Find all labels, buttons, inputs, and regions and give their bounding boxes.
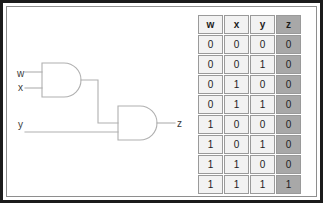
- cell-y: 1: [250, 55, 275, 74]
- input-label-w: w: [17, 69, 24, 79]
- table-row: 1 1 1 1: [198, 175, 301, 194]
- cell-z: 0: [276, 95, 301, 114]
- truth-table-head: w x y z: [198, 15, 301, 34]
- table-row: 0 0 0 0: [198, 35, 301, 54]
- column-header-y: y: [250, 15, 275, 34]
- cell-w: 0: [198, 95, 223, 114]
- table-row: 0 0 1 0: [198, 55, 301, 74]
- cell-z: 0: [276, 55, 301, 74]
- truth-table-wrapper: w x y z 0 0 0 0 0 0 1 0: [197, 14, 302, 186]
- cell-z: 0: [276, 75, 301, 94]
- wire-gate1-to-gate2: [81, 80, 118, 123]
- and-gate-2-body: [118, 106, 157, 140]
- cell-x: 1: [224, 95, 249, 114]
- cell-y: 0: [250, 35, 275, 54]
- cell-y: 0: [250, 155, 275, 174]
- cell-w: 0: [198, 55, 223, 74]
- cell-y: 1: [250, 95, 275, 114]
- cell-x: 1: [224, 155, 249, 174]
- cell-z: 1: [276, 175, 301, 194]
- cell-w: 0: [198, 75, 223, 94]
- circuit-svg: [8, 8, 193, 195]
- input-label-y: y: [18, 120, 23, 130]
- column-header-z: z: [276, 15, 301, 34]
- output-label-z: z: [177, 119, 182, 129]
- cell-w: 1: [198, 155, 223, 174]
- circuit-diagram: w x y z: [8, 8, 193, 195]
- table-row: 0 1 0 0: [198, 75, 301, 94]
- cell-y: 0: [250, 115, 275, 134]
- cell-z: 0: [276, 35, 301, 54]
- cell-x: 0: [224, 55, 249, 74]
- truth-table-header-row: w x y z: [198, 15, 301, 34]
- cell-w: 1: [198, 115, 223, 134]
- cell-y: 1: [250, 175, 275, 194]
- cell-z: 0: [276, 135, 301, 154]
- column-header-w: w: [198, 15, 223, 34]
- table-row: 1 0 1 0: [198, 135, 301, 154]
- logic-circuit-figure: w x y z w x y z 0 0 0 0: [0, 0, 323, 203]
- cell-x: 0: [224, 35, 249, 54]
- input-label-x: x: [18, 83, 23, 93]
- truth-table-body: 0 0 0 0 0 0 1 0 0 1 0 0 0: [198, 35, 301, 194]
- cell-y: 0: [250, 75, 275, 94]
- cell-w: 0: [198, 35, 223, 54]
- column-header-x: x: [224, 15, 249, 34]
- table-row: 1 1 0 0: [198, 155, 301, 174]
- cell-x: 1: [224, 175, 249, 194]
- cell-x: 0: [224, 115, 249, 134]
- cell-z: 0: [276, 155, 301, 174]
- cell-z: 0: [276, 115, 301, 134]
- cell-x: 0: [224, 135, 249, 154]
- and-gate-1-body: [42, 63, 81, 97]
- cell-x: 1: [224, 75, 249, 94]
- table-row: 1 0 0 0: [198, 115, 301, 134]
- cell-w: 1: [198, 135, 223, 154]
- truth-table: w x y z 0 0 0 0 0 0 1 0: [197, 14, 302, 195]
- cell-w: 1: [198, 175, 223, 194]
- table-row: 0 1 1 0: [198, 95, 301, 114]
- cell-y: 1: [250, 135, 275, 154]
